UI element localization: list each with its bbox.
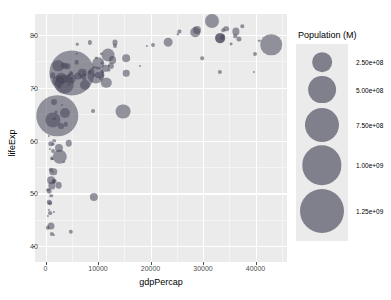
data-point [49, 194, 53, 198]
plot-panel [35, 14, 287, 262]
gridline-minor-x [124, 14, 125, 262]
data-point [229, 43, 232, 46]
gridline-major-x [98, 14, 99, 262]
data-point [116, 104, 131, 119]
bubble-chart: 010000200003000040000 4050607080 gdpPerc… [0, 0, 391, 300]
data-point [53, 211, 55, 213]
y-tick-mark [33, 193, 36, 194]
gridline-major-y [35, 35, 287, 36]
legend-label: 1.00e+09 [356, 162, 383, 169]
gridline-major-y [35, 193, 287, 194]
data-point [122, 54, 130, 62]
data-point [200, 57, 204, 61]
data-point [164, 38, 173, 47]
gridline-minor-y [35, 167, 287, 168]
x-tick-label: 10000 [88, 265, 107, 272]
data-point [50, 72, 56, 78]
x-tick-mark [151, 262, 152, 265]
data-point [146, 45, 148, 47]
gridline-major-y [35, 141, 287, 142]
x-tick-mark [98, 262, 99, 265]
data-point [260, 34, 282, 56]
data-point [47, 176, 55, 184]
gridline-minor-y [35, 220, 287, 221]
data-point [221, 28, 225, 32]
data-point [95, 72, 101, 78]
gridline-minor-x [229, 14, 230, 262]
x-tick-mark [46, 262, 47, 265]
data-point [74, 60, 79, 65]
y-tick-mark [33, 35, 36, 36]
gridline-major-x [151, 14, 152, 262]
data-point [58, 123, 64, 129]
data-point [101, 62, 104, 65]
legend-label: 5.00e+08 [356, 86, 383, 93]
x-tick-mark [203, 262, 204, 265]
data-point [139, 65, 141, 67]
y-tick-mark [33, 246, 36, 247]
legend-bubble [308, 76, 336, 104]
data-point [123, 70, 130, 77]
data-point [215, 33, 225, 43]
data-point [66, 140, 73, 147]
data-point [108, 63, 114, 69]
data-point [253, 52, 257, 56]
data-point [55, 182, 62, 189]
data-point [91, 109, 95, 113]
data-point [101, 77, 111, 87]
x-tick-label: 30000 [193, 265, 212, 272]
data-point [88, 70, 92, 74]
y-tick-mark [33, 88, 36, 89]
x-tick-mark [256, 262, 257, 265]
data-point [80, 80, 90, 90]
data-point [102, 49, 115, 62]
legend-keys: 2.50e+085.00e+087.50e+081.00e+091.25e+09 [296, 44, 348, 241]
data-point [53, 150, 67, 164]
legend-bubble [300, 189, 344, 233]
legend-bubble [305, 107, 339, 141]
data-point [236, 36, 241, 41]
data-point [193, 26, 201, 34]
data-point [151, 43, 155, 47]
data-point [176, 33, 179, 36]
data-point [53, 139, 57, 143]
legend-bubble [302, 146, 341, 185]
legend-label: 2.50e+08 [356, 58, 383, 65]
data-point [55, 110, 58, 113]
data-point [48, 212, 52, 216]
data-point [88, 40, 92, 44]
legend-title: Population (M) [298, 30, 391, 40]
gridline-major-y [35, 246, 287, 247]
data-point [218, 70, 222, 74]
legend-bubble [312, 52, 332, 72]
gridline-major-x [203, 14, 204, 262]
data-point [48, 209, 50, 211]
gridline-minor-x [177, 14, 178, 262]
data-point [76, 43, 79, 46]
data-point [205, 14, 219, 28]
data-point [48, 201, 52, 205]
x-tick-label: 0 [44, 265, 48, 272]
x-axis-title: gdpPercap [35, 277, 287, 287]
x-tick-label: 20000 [141, 265, 160, 272]
data-point [47, 189, 52, 194]
x-tick-label: 40000 [246, 265, 265, 272]
legend: Population (M) 2.50e+085.00e+087.50e+081… [296, 30, 391, 241]
data-point [241, 24, 244, 27]
data-point [233, 28, 240, 35]
legend-label: 1.25e+09 [356, 207, 383, 214]
y-tick-mark [33, 141, 36, 142]
legend-label: 7.50e+08 [356, 121, 383, 128]
data-point [48, 141, 53, 146]
data-point [51, 99, 57, 105]
data-point [113, 44, 117, 48]
y-axis-title: lifeExp [7, 108, 17, 178]
gridline-minor-x [282, 14, 283, 262]
